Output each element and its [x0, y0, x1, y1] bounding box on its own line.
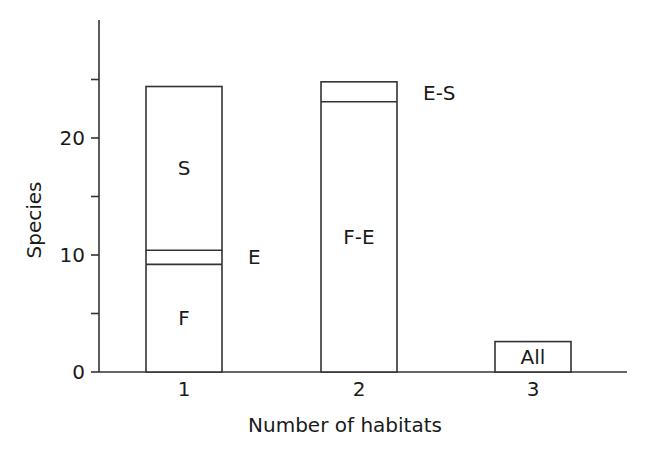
segment-label-f: F — [178, 306, 190, 330]
bar-3: All — [495, 342, 571, 372]
bar-1: FES — [146, 87, 261, 372]
segment-label-s: S — [178, 156, 191, 180]
y-axis-label: Species — [22, 182, 46, 259]
segment-label-all: All — [521, 345, 546, 369]
x-tick-label: 1 — [178, 377, 191, 401]
y-tick-label: 20 — [60, 126, 85, 150]
bars: FESF-EE-SAll — [146, 81, 571, 372]
stacked-bar-chart: 01020123 FESF-EE-SAll Number of habitats… — [0, 0, 650, 455]
x-tick-label: 3 — [527, 377, 540, 401]
y-tick-label: 0 — [72, 360, 85, 384]
x-axis-label: Number of habitats — [248, 413, 442, 437]
bar-2: F-EE-S — [321, 81, 456, 372]
segment-label-f-e: F-E — [343, 225, 374, 249]
x-tick-label: 2 — [353, 377, 366, 401]
segment-label-e-s: E-S — [423, 81, 456, 105]
segment-label-e: E — [248, 245, 261, 269]
y-tick-label: 10 — [60, 243, 85, 267]
